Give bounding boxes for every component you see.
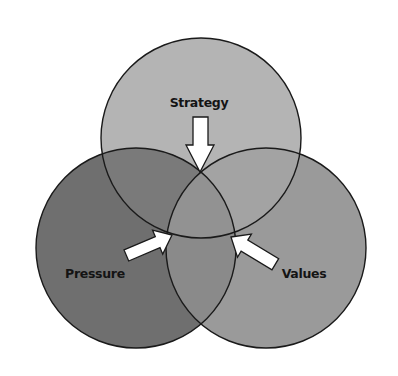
venn-diagram: Strategy Pressure Values [0,0,398,376]
pressure-label: Pressure [65,266,125,281]
strategy-label: Strategy [170,95,229,110]
values-label: Values [282,266,327,281]
